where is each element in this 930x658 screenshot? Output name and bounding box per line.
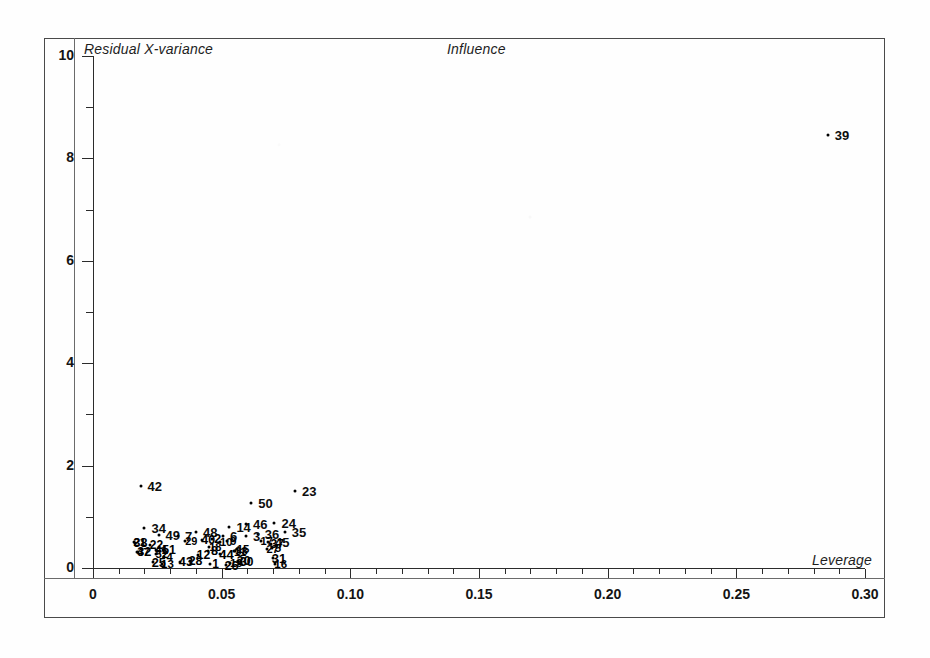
x-tick-minor — [788, 569, 789, 574]
x-tick-label: 0.30 — [835, 586, 895, 602]
data-point — [221, 535, 224, 538]
overlapping-point-label: 13 — [161, 558, 174, 570]
overlapping-point-label: 30 — [240, 555, 253, 569]
x-tick-minor — [325, 569, 326, 574]
data-point — [154, 552, 157, 555]
data-point — [272, 557, 275, 560]
data-point — [294, 490, 297, 493]
x-tick-minor — [530, 569, 531, 574]
x-tick-label: 0.25 — [706, 586, 766, 602]
data-point-label: 45 — [275, 535, 289, 550]
data-point — [154, 548, 157, 551]
y-tick-minor — [86, 312, 93, 313]
overlapping-point-label: 22 — [150, 538, 163, 552]
data-point-label: 39 — [835, 128, 849, 143]
data-point-label: 3 — [253, 529, 260, 544]
y-axis-label-band-divider — [74, 38, 75, 578]
overlapping-point-label: 47 — [137, 546, 150, 558]
data-point — [226, 540, 229, 543]
data-point — [157, 533, 160, 536]
x-tick-major — [479, 569, 480, 578]
data-point — [245, 534, 248, 537]
y-tick-major — [82, 261, 93, 262]
y-tick-minor — [86, 210, 93, 211]
data-point — [273, 521, 276, 524]
data-point — [219, 552, 222, 555]
x-tick-minor — [402, 569, 403, 574]
y-tick-label: 4 — [40, 354, 74, 370]
overlapping-point-label: 32 — [137, 545, 151, 559]
x-tick-minor — [376, 569, 377, 574]
data-point — [229, 562, 232, 565]
overlapping-point-label: 21 — [134, 536, 146, 548]
x-tick-major — [350, 569, 351, 578]
data-point — [176, 535, 179, 538]
data-point-label: 23 — [302, 484, 316, 499]
y-tick-label: 6 — [40, 252, 74, 268]
data-point-label: 7 — [185, 529, 192, 544]
data-point — [283, 531, 286, 534]
overlapping-point-label: 41 — [155, 544, 168, 556]
data-point — [250, 501, 253, 504]
data-point — [233, 550, 236, 553]
x-tick-major — [865, 569, 866, 578]
scanned-figure: Residual X-variance Influence Leverage 0… — [0, 0, 930, 658]
data-point — [228, 525, 231, 528]
overlapping-point-label: 18 — [209, 541, 221, 553]
data-point — [271, 546, 274, 549]
x-tick-minor — [273, 569, 274, 574]
data-point — [234, 550, 237, 553]
data-point — [161, 549, 164, 552]
data-point — [219, 540, 222, 543]
overlapping-point-label: 31 — [272, 551, 286, 566]
x-tick-minor — [582, 569, 583, 574]
data-point — [160, 562, 163, 565]
x-tick-minor — [428, 569, 429, 574]
overlapping-point-label: 11 — [234, 545, 246, 558]
x-tick-minor — [119, 569, 120, 574]
overlapping-point-label: 38 — [134, 536, 148, 550]
data-point — [239, 560, 242, 563]
data-point-label: 35 — [292, 525, 306, 540]
overlapping-point-label: 12 — [197, 548, 211, 562]
y-tick-label: 2 — [40, 457, 74, 473]
overlapping-point-label: 25 — [152, 554, 166, 569]
data-point — [245, 522, 248, 525]
x-tick-major — [736, 569, 737, 578]
x-tick-minor — [170, 569, 171, 574]
data-point-label: 42 — [148, 479, 162, 494]
dense-label-cluster: 5891011121315161718192021222526272829303… — [93, 56, 865, 568]
data-point — [149, 543, 152, 546]
data-point — [162, 555, 165, 558]
chart-title: Influence — [447, 41, 506, 57]
data-point — [196, 553, 199, 556]
data-point-label: 14 — [236, 520, 250, 535]
overlapping-point-label: 43 — [179, 555, 193, 569]
y-tick-major — [82, 363, 93, 364]
x-tick-minor — [814, 569, 815, 574]
x-tick-label: 0.15 — [449, 586, 509, 602]
data-point — [178, 561, 181, 564]
data-point — [208, 563, 211, 566]
data-point — [265, 548, 268, 551]
overlapping-point-label: 19 — [230, 557, 243, 569]
y-axis-title: Residual X-variance — [84, 41, 213, 57]
x-tick-minor — [299, 569, 300, 574]
x-tick-minor — [711, 569, 712, 574]
overlapping-point-label: 8 — [211, 544, 218, 558]
y-tick-minor — [86, 517, 93, 518]
overlapping-point-label: 16 — [274, 558, 287, 570]
overlapping-point-label: 52 — [156, 548, 168, 560]
data-point — [143, 526, 146, 529]
data-point — [270, 542, 273, 545]
plot-area: 39422350342414463536348494567 5891011121… — [93, 56, 865, 568]
x-tick-label: 0.10 — [320, 586, 380, 602]
y-tick-major — [82, 56, 93, 57]
data-point — [132, 540, 135, 543]
y-tick-major — [82, 158, 93, 159]
y-tick-label: 0 — [40, 559, 74, 575]
data-point — [194, 531, 197, 534]
x-tick-minor — [762, 569, 763, 574]
data-point — [136, 551, 139, 554]
data-point — [188, 559, 191, 562]
